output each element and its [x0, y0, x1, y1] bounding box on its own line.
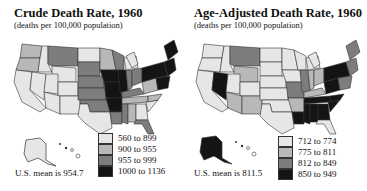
us-choropleth-map: [8, 36, 180, 136]
us-mean-label: U.S. mean is 954.7: [15, 168, 84, 178]
legend-swatch: [278, 169, 293, 180]
legend-swatch: [278, 158, 293, 169]
map-title: Age-Adjusted Death Rate, 1960: [194, 6, 362, 21]
map-subtitle: (deaths per 100,000 population): [14, 20, 123, 30]
legend-swatch: [98, 166, 113, 177]
legend-swatch: [98, 144, 113, 155]
legend-label: 812 to 849: [298, 158, 337, 169]
legend-label: 712 to 774: [298, 136, 337, 147]
legend-swatch: [278, 136, 293, 147]
legend-label: 560 to 899: [118, 133, 157, 144]
crude-death-rate-panel: Crude Death Rate, 1960 (deaths per 100,0…: [0, 0, 184, 191]
legend-swatch: [278, 147, 293, 158]
map-subtitle: (deaths per 100,000 population): [194, 20, 303, 30]
legend-label: 900 to 955: [118, 144, 157, 155]
legend-label: 1000 to 1136: [118, 166, 165, 177]
us-mean-label: U.S. mean is 811.5: [194, 168, 262, 178]
us-choropleth-map: [190, 36, 362, 136]
legend-swatch: [98, 133, 113, 144]
legend: 712 to 774 775 to 811 812 to 849 850 to …: [278, 136, 364, 184]
legend-label: 955 to 999: [118, 155, 157, 166]
legend: 560 to 899 900 to 955 955 to 999 1000 to…: [98, 133, 184, 181]
age-adjusted-death-rate-panel: Age-Adjusted Death Rate, 1960 (deaths pe…: [184, 0, 367, 191]
alaska-hawaii-inset: [196, 134, 266, 172]
map-title: Crude Death Rate, 1960: [14, 6, 142, 21]
legend-swatch: [98, 155, 113, 166]
legend-label: 850 to 949: [298, 169, 337, 180]
legend-label: 775 to 811: [298, 147, 336, 158]
